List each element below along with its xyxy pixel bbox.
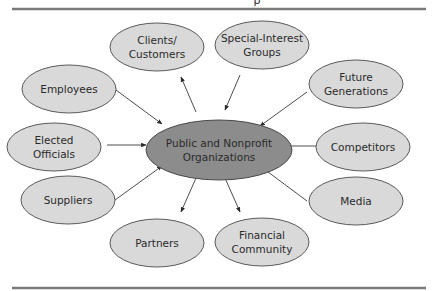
arrow-financial-community <box>225 178 240 212</box>
node-label: Financial <box>239 229 285 241</box>
node-label: Community <box>232 243 293 255</box>
node-financial-community: FinancialCommunity <box>215 218 309 266</box>
node-label: Competitors <box>331 141 395 153</box>
node-label: Media <box>340 195 372 207</box>
node-label: Generations <box>324 85 388 97</box>
node-label: Partners <box>135 237 179 249</box>
center-node: Public and NonprofitOrganizations <box>146 120 292 180</box>
node-competitors: Competitors <box>316 123 410 171</box>
node-label: Special-Interest <box>221 32 303 44</box>
node-label: Customers <box>129 48 185 60</box>
node-ellipse <box>7 123 101 171</box>
arrow-future-generations <box>260 92 307 126</box>
arrow-suppliers <box>115 166 162 200</box>
node-special-interest: Special-InterestGroups <box>215 21 309 69</box>
stakeholder-diagram: p Clients/CustomersSpecial-InterestGroup… <box>0 0 438 291</box>
arrow-employees <box>116 90 162 124</box>
node-label: Suppliers <box>44 194 93 206</box>
node-label: Groups <box>243 46 280 58</box>
node-employees: Employees <box>22 65 116 113</box>
node-ellipse <box>309 60 403 108</box>
arrow-clients <box>181 77 196 112</box>
node-suppliers: Suppliers <box>21 176 115 224</box>
nodes: Clients/CustomersSpecial-InterestGroupsE… <box>7 21 410 267</box>
center-label: Public and Nonprofit <box>166 137 272 149</box>
center-label: Organizations <box>183 151 256 163</box>
node-label: Employees <box>40 83 97 95</box>
node-label: Clients/ <box>137 34 177 46</box>
node-ellipse <box>215 21 309 69</box>
node-elected-officials: ElectedOfficials <box>7 123 101 171</box>
node-ellipse <box>110 23 204 71</box>
arrow-special-interest <box>225 75 240 110</box>
arrow-partners <box>181 178 196 212</box>
node-media: Media <box>309 177 403 225</box>
node-label: Elected <box>34 134 73 146</box>
node-label: Officials <box>33 148 75 160</box>
node-ellipse <box>215 218 309 266</box>
node-label: Future <box>339 71 372 83</box>
header-fragment: p <box>254 0 261 7</box>
node-clients: Clients/Customers <box>110 23 204 71</box>
node-future-generations: FutureGenerations <box>309 60 403 108</box>
center-ellipse <box>146 120 292 180</box>
node-partners: Partners <box>110 219 204 267</box>
